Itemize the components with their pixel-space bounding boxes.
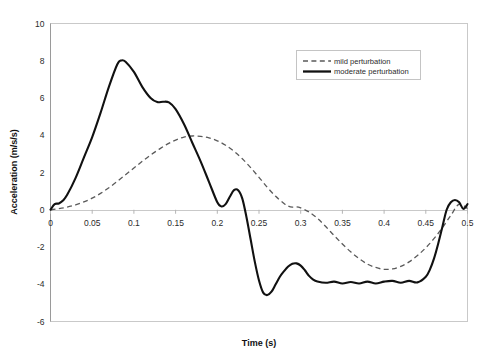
x-tick-label: 0.15 (167, 218, 184, 228)
x-tick-label: 0.5 (462, 218, 474, 228)
y-tick-label: 0 (40, 205, 45, 215)
y-tick-label: 4 (40, 130, 45, 140)
x-tick-label: 0.4 (378, 218, 390, 228)
x-tick-label: 0 (48, 218, 53, 228)
series-mild-perturbation (51, 136, 468, 270)
x-tick-label: 0.35 (334, 218, 351, 228)
y-tick-label: -6 (37, 317, 45, 327)
legend: mild perturbation moderate perturbation (297, 51, 421, 80)
y-tick-label: 8 (40, 56, 45, 66)
y-tick-label: 6 (40, 93, 45, 103)
x-tick-label: 0.05 (84, 218, 101, 228)
x-tick-label: 0.2 (211, 218, 223, 228)
x-tick-label: 0.45 (418, 218, 435, 228)
y-tick-labels: -6-4-20246810 (35, 19, 45, 327)
y-tick-label: 2 (40, 168, 45, 178)
x-tick-label: 0.25 (251, 218, 268, 228)
x-tick-label: 0.1 (128, 218, 140, 228)
chart-svg: -6-4-20246810 00.050.10.150.20.250.30.35… (0, 0, 495, 360)
y-tick-label: -2 (37, 242, 45, 252)
legend-label-moderate: moderate perturbation (334, 67, 409, 76)
x-axis-title: Time (s) (242, 338, 276, 348)
x-tick-label: 0.3 (295, 218, 307, 228)
y-axis-title: Acceleration (m/s/s) (9, 129, 19, 215)
y-tick-label: 10 (35, 19, 45, 29)
y-tick-label: -4 (37, 279, 45, 289)
acceleration-time-chart: -6-4-20246810 00.050.10.150.20.250.30.35… (0, 0, 495, 360)
x-tick-labels: 00.050.10.150.20.250.30.350.40.450.5 (48, 210, 474, 228)
legend-label-mild: mild perturbation (334, 57, 391, 66)
